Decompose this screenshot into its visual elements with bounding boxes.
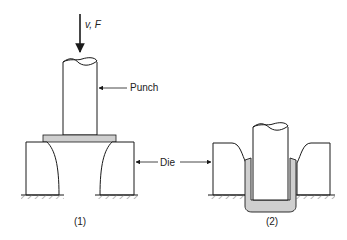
die-1-right [100, 142, 134, 195]
force-label: v, F [85, 19, 102, 30]
stage-2: (2) [208, 123, 335, 227]
die-2-left [213, 143, 246, 195]
die-2-right [297, 143, 330, 195]
sheet-blank [43, 135, 116, 142]
deep-drawing-diagram: v, F Punch (1) Die [0, 0, 347, 240]
punch-label: Punch [130, 82, 158, 93]
punch-2 [253, 123, 288, 200]
die-callout: Die [136, 157, 211, 168]
die-1-left [26, 142, 59, 195]
punch-1 [63, 58, 97, 135]
die-label: Die [160, 157, 175, 168]
stage-2-label: (2) [266, 216, 278, 227]
stage-1: v, F Punch (1) [21, 14, 158, 227]
stage-1-label: (1) [74, 216, 86, 227]
